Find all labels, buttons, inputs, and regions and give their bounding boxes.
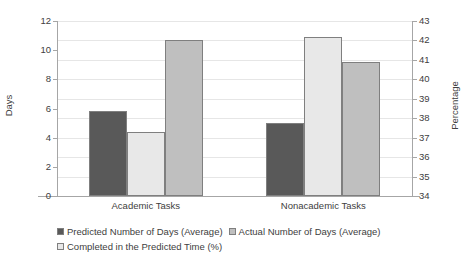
- gridline: [57, 60, 412, 61]
- tick-value: 41: [419, 55, 430, 65]
- tick-value: 39: [419, 94, 430, 104]
- right-axis-tick-mark: [413, 79, 417, 80]
- gridline: [57, 21, 412, 22]
- tick-value: 0: [46, 191, 51, 201]
- bar: [127, 132, 165, 196]
- legend-swatch-icon: [57, 228, 64, 235]
- left-axis-title: Days: [3, 81, 14, 131]
- legend-swatch-icon: [229, 228, 236, 235]
- legend-label: Actual Number of Days (Average): [239, 226, 381, 237]
- bar-chart: 024681012 34353637383940414243 Academic …: [0, 0, 472, 255]
- tick-value: 2: [46, 162, 51, 172]
- left-axis-tick-mark: [53, 138, 57, 139]
- tick-value: 43: [419, 16, 430, 26]
- right-axis-tick-mark: [413, 40, 417, 41]
- tick-value: 6: [46, 104, 51, 114]
- right-axis-title: Percentage: [449, 76, 460, 136]
- chart-legend: Predicted Number of Days (Average)Actual…: [57, 224, 457, 254]
- tick-value: 36: [419, 152, 430, 162]
- category-label: Academic Tasks: [57, 200, 235, 211]
- right-axis-tick-mark: [413, 99, 417, 100]
- tick-value: 4: [46, 133, 51, 143]
- left-axis-tick-mark: [53, 109, 57, 110]
- tick-value: 34: [419, 191, 430, 201]
- legend-row: Completed in the Predicted Time (%): [57, 239, 457, 254]
- tick-value: 35: [419, 172, 430, 182]
- left-axis-tick-mark: [53, 196, 57, 197]
- bar: [304, 37, 342, 196]
- tick-value: 42: [419, 35, 430, 45]
- right-axis-tick-mark: [413, 60, 417, 61]
- left-axis-tick-mark: [53, 21, 57, 22]
- tick-value: 37: [419, 133, 430, 143]
- right-axis-tick-mark: [413, 196, 417, 197]
- tick-value: 12: [40, 16, 51, 26]
- right-axis-tick-mark: [413, 21, 417, 22]
- legend-item[interactable]: Predicted Number of Days (Average): [57, 226, 223, 237]
- legend-item[interactable]: Completed in the Predicted Time (%): [57, 241, 222, 252]
- bar: [89, 111, 127, 196]
- left-axis-tick-mark: [53, 79, 57, 80]
- legend-label: Predicted Number of Days (Average): [67, 226, 223, 237]
- right-axis-tick-mark: [413, 157, 417, 158]
- tick-value: 40: [419, 74, 430, 84]
- bar: [165, 40, 203, 196]
- right-axis-tick-mark: [413, 177, 417, 178]
- legend-swatch-icon: [57, 243, 64, 250]
- right-axis-tick-mark: [413, 118, 417, 119]
- left-axis-tick-mark: [53, 167, 57, 168]
- legend-row: Predicted Number of Days (Average)Actual…: [57, 224, 457, 239]
- right-axis-line: [412, 21, 413, 197]
- gridline: [57, 40, 412, 41]
- bar: [266, 123, 304, 196]
- tick-value: 38: [419, 113, 430, 123]
- legend-label: Completed in the Predicted Time (%): [67, 241, 222, 252]
- legend-item[interactable]: Actual Number of Days (Average): [229, 226, 381, 237]
- bar: [342, 62, 380, 196]
- category-label: Nonacademic Tasks: [235, 200, 413, 211]
- right-axis-tick-mark: [413, 138, 417, 139]
- tick-value: 10: [40, 45, 51, 55]
- left-axis-line: [57, 21, 58, 197]
- tick-value: 8: [46, 74, 51, 84]
- category-axis-line: [38, 196, 420, 197]
- left-axis-tick-mark: [53, 50, 57, 51]
